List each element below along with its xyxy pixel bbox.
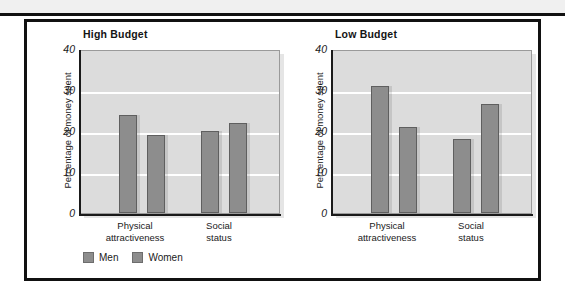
y-tick-40: 40 [51, 43, 75, 55]
legend-item-women: Women [132, 252, 182, 263]
legend-label-men: Men [99, 252, 118, 263]
x-category-social-low-budget: Social status [416, 220, 526, 244]
legend-swatch-icon-women [132, 252, 143, 263]
gridline-30 [81, 92, 279, 94]
legend-item-men: Men [83, 252, 118, 263]
bar-low-budget-men-social [453, 139, 471, 213]
x-category-line1: Social [416, 220, 526, 232]
bar-high-budget-women-social [229, 123, 247, 213]
y-tick-30: 30 [303, 84, 327, 96]
gridline-10 [333, 174, 531, 176]
bar-high-budget-men-social [201, 131, 219, 213]
y-tick-10: 10 [51, 166, 75, 178]
bar-high-budget-women-physical [147, 135, 165, 213]
top-strip-divider [0, 13, 565, 16]
x-category-line2: status [164, 232, 274, 244]
y-tick-20: 20 [51, 125, 75, 137]
bar-high-budget-men-physical [119, 115, 137, 213]
y-tick-10: 10 [303, 166, 327, 178]
plot-area-low-budget [332, 50, 532, 214]
x-category-social-high-budget: Social status [164, 220, 274, 244]
legend-swatch-icon-men [83, 252, 94, 263]
bar-low-budget-men-physical [371, 86, 389, 213]
x-category-line1: Social [164, 220, 274, 232]
bar-low-budget-women-physical [399, 127, 417, 213]
y-axis-line-low-budget [331, 50, 333, 216]
legend-label-women: Women [148, 252, 182, 263]
y-axis-ticks-low-budget: 40 30 20 10 0 [299, 50, 327, 214]
figure-frame: High Budget Percentage of money spent 40… [24, 19, 541, 281]
y-tick-0: 0 [51, 207, 75, 219]
gridline-20 [81, 133, 279, 135]
y-tick-20: 20 [303, 125, 327, 137]
gridline-20 [333, 133, 531, 135]
y-axis-line-high-budget [79, 50, 81, 216]
figure-page: High Budget Percentage of money spent 40… [0, 0, 565, 297]
gridline-30 [333, 92, 531, 94]
y-axis-ticks-high-budget: 40 30 20 10 0 [47, 50, 75, 214]
x-category-line2: status [416, 232, 526, 244]
bar-low-budget-women-social [481, 104, 499, 213]
plot-area-high-budget [80, 50, 280, 214]
top-strip [0, 0, 565, 13]
x-axis-line-high-budget [79, 214, 281, 216]
chart-legend: Men Women [83, 252, 183, 263]
chart-title-high-budget: High Budget [83, 28, 148, 40]
y-tick-0: 0 [303, 207, 327, 219]
y-tick-40: 40 [303, 43, 327, 55]
gridline-10 [81, 174, 279, 176]
y-tick-30: 30 [51, 84, 75, 96]
x-axis-line-low-budget [331, 214, 533, 216]
chart-title-low-budget: Low Budget [335, 28, 397, 40]
